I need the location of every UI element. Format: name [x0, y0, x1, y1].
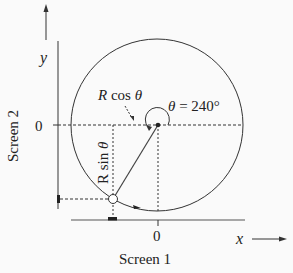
rcos-arrowhead-icon	[130, 116, 134, 121]
theta-arrowhead-icon	[146, 125, 152, 131]
motion-arrow-icon	[133, 205, 141, 209]
y-arrowhead-icon	[44, 4, 49, 12]
x-zero-label: 0	[153, 229, 161, 244]
diagram-canvas	[0, 0, 293, 273]
x-axis-label: x	[236, 231, 243, 247]
y-axis-label: y	[40, 50, 47, 66]
y-zero-label: 0	[35, 119, 43, 134]
screen2-shadow-mark	[57, 195, 60, 203]
theta-label: θ = 240°	[168, 99, 220, 114]
screen1-shadow-mark	[108, 217, 117, 221]
center-point	[156, 123, 161, 128]
x-arrowhead-icon	[279, 237, 287, 242]
screen2-label: Screen 2	[6, 110, 21, 162]
rsin-label: R sin θ	[96, 142, 111, 184]
screen1-label: Screen 1	[119, 252, 171, 267]
rcos-label: R cos θ	[98, 88, 142, 103]
rotating-point	[109, 195, 118, 204]
radius-line	[113, 125, 158, 199]
